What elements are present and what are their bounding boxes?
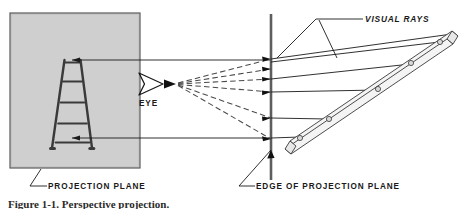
- perspective-projection-figure: EYE: [0, 0, 465, 209]
- diagram-canvas: EYE: [0, 0, 465, 209]
- visual-ray: [178, 86, 271, 140]
- object-ladder-rung-node: [437, 39, 442, 44]
- object-ray: [271, 118, 328, 119]
- edge-of-projection-plane-leader: [239, 150, 271, 186]
- eye-symbol-group: EYE: [139, 73, 176, 108]
- projection-plane-rect: [10, 13, 140, 168]
- object-ladder-rung-node: [297, 135, 302, 140]
- eye-direction-arrowhead: [164, 80, 176, 89]
- ray-arrowhead: [262, 77, 271, 82]
- object-ladder-rung-node: [375, 86, 380, 91]
- object-ladder-rung-node: [326, 116, 331, 121]
- visual-rays-group: [178, 59, 271, 139]
- edge-of-projection-plane-arrowhead: [267, 150, 274, 159]
- projection-plane-callout: PROJECTION PLANE: [30, 169, 146, 191]
- eye-icon: [139, 73, 163, 95]
- object-ladder-rail-near: [285, 39, 453, 154]
- visual-ray: [178, 85, 271, 118]
- visual-ray: [178, 85, 271, 93]
- ray-arrowhead: [262, 67, 271, 72]
- ray-arrowhead: [262, 136, 271, 141]
- eye-label: EYE: [139, 99, 158, 108]
- object-ladder-group: [285, 31, 458, 154]
- visual-rays-callout: VISUAL RAYS: [277, 14, 429, 58]
- projection-plane-leader: [30, 169, 47, 186]
- projection-plane-group: [10, 13, 140, 168]
- edge-of-projection-plane-callout: EDGE OF PROJECTION PLANE: [239, 150, 400, 191]
- object-ladder-rung-node: [408, 60, 413, 65]
- edge-of-projection-plane-label: EDGE OF PROJECTION PLANE: [256, 182, 400, 191]
- projection-plane-label: PROJECTION PLANE: [48, 182, 146, 191]
- ray-arrowheads-group: [262, 57, 271, 142]
- visual-rays-label: VISUAL RAYS: [365, 14, 429, 24]
- figure-caption: Figure 1-1. Perspective projection.: [8, 198, 169, 209]
